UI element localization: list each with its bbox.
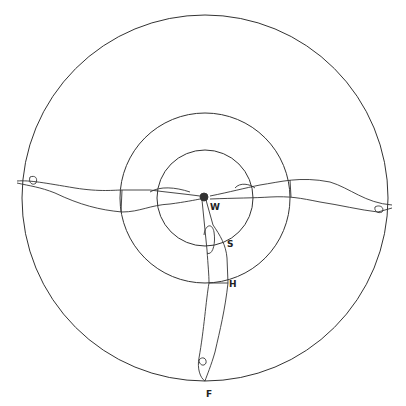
label-w: W xyxy=(210,202,220,212)
label-s: S xyxy=(227,239,233,249)
diagram: W S H F xyxy=(0,0,406,406)
label-h: H xyxy=(229,279,237,289)
gymnast-figure xyxy=(17,176,392,381)
gymnast-diagram xyxy=(0,0,406,406)
label-f: F xyxy=(206,389,212,399)
